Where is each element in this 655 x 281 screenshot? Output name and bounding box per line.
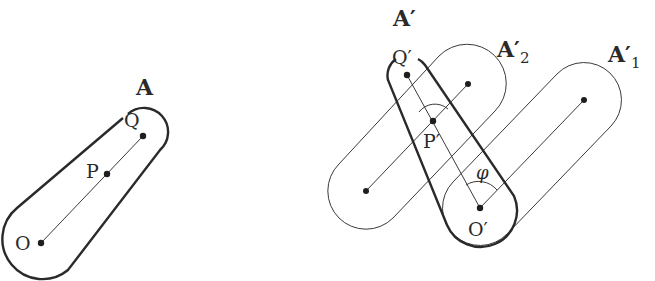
segment-oq-prime [407,75,480,208]
point-a2-end [363,188,369,194]
label-shape-a: A [135,74,154,100]
label-p: P [86,160,99,182]
point-p [104,171,110,177]
label-q-prime: Q′ [392,46,412,68]
segment-a1 [480,100,584,208]
label-shape-a2: A′2 [496,36,529,67]
label-angle-phi: φ [476,162,489,183]
shape-a1-prime: A′1 [443,41,641,245]
label-shape-a1: A′1 [607,41,640,72]
segment-a2 [366,84,468,191]
segment-oq [41,136,143,243]
point-a2-q [465,81,471,87]
point-q-prime [404,72,410,78]
label-shape-a-prime: A′ [392,5,416,31]
point-a1-q [581,97,587,103]
point-q [140,133,146,139]
label-o-prime: O′ [468,218,488,240]
shape-a-prime-outline [387,59,517,247]
diagram-canvas: O P Q A A′2 A′1 Q′ P′ O′ φ A′ [0,0,655,281]
point-o [38,240,44,246]
shape-a2-outline [328,44,506,229]
label-p-prime: P′ [423,130,440,152]
diagram-svg: O P Q A A′2 A′1 Q′ P′ O′ φ A′ [0,0,655,281]
label-q: Q [124,109,140,131]
point-o-prime [477,205,483,211]
point-p-prime [430,118,436,124]
label-o: O [15,232,31,254]
shape-a: O P Q A [2,74,168,279]
